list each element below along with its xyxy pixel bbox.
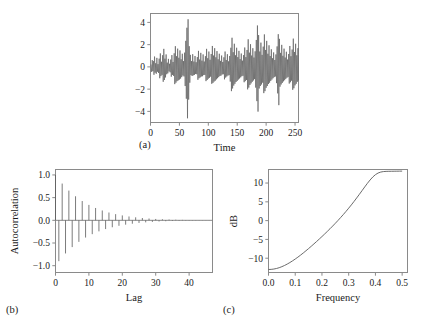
panel-c-ytick-label: 0 [258,216,263,226]
panel-b-xtick-label: 20 [118,278,128,288]
panel-b-ytick-label: −0.5 [33,238,50,248]
panel-a-xtick-label: 100 [201,128,216,138]
panel-a-time-series: 050100150200250−4−2024Time (a) [0,0,421,160]
panel-a-xtick-label: 250 [288,128,303,138]
panel-a-ytick-label: −4 [135,107,145,117]
panel-c-spectrum: 0.00.10.20.30.40.51050−5−10FrequencydB (… [215,160,421,328]
panel-c-ytick-label: −10 [248,254,263,264]
panel-a-xtick-label: 50 [175,128,185,138]
panel-b-yaxis-title: Autocorrelation [9,187,20,254]
panel-b-xtick-label: 10 [84,278,94,288]
panel-b-xaxis-title: Lag [126,292,143,303]
panel-c-xtick-label: 0.1 [289,278,301,288]
panel-b-ytick-label: 0.0 [38,216,50,226]
panel-a-xtick-label: 200 [259,128,274,138]
panel-c-xtick-label: 0.4 [369,278,381,288]
panel-b-xtick-label: 40 [184,278,194,288]
panel-b-xtick-label: 30 [151,278,161,288]
panel-c-label: (c) [223,304,235,315]
panel-a-xtick-label: 150 [230,128,245,138]
panel-b-ytick-label: −1.0 [33,261,50,271]
panel-c-xtick-label: 0.0 [263,278,275,288]
panel-a-canvas: 050100150200250−4−2024Time [0,0,421,160]
panel-c-ytick-label: −5 [253,235,263,245]
panel-b-ytick-label: 1.0 [38,170,50,180]
panel-c-xtick-label: 0.3 [343,278,355,288]
panel-b-xtick-label: 0 [53,278,58,288]
panel-a-ytick-label: 0 [140,62,145,72]
panel-a-xaxis-title: Time [214,142,236,153]
panel-a-ytick-label: 2 [140,40,145,50]
panel-c-yaxis-title: dB [228,215,239,227]
panel-b-label: (b) [6,304,18,315]
panel-a-ytick-label: −2 [135,85,145,95]
panel-c-xtick-label: 0.2 [316,278,328,288]
panel-b-canvas: 0102030401.00.50.0−0.5−1.0LagAutocorrela… [0,160,215,328]
panel-c-xtick-label: 0.5 [396,278,408,288]
panel-c-ytick-label: 5 [258,197,263,207]
panel-c-xaxis-title: Frequency [316,292,361,303]
panel-b-autocorrelation: 0102030401.00.50.0−0.5−1.0LagAutocorrela… [0,160,215,328]
panel-b-ytick-label: 0.5 [38,193,50,203]
panel-c-canvas: 0.00.10.20.30.40.51050−5−10FrequencydB [215,160,421,328]
panel-a-label: (a) [139,139,151,150]
panel-c-ytick-label: 10 [254,178,264,188]
panel-a-ytick-label: 4 [140,18,145,28]
panel-a-xtick-label: 0 [148,128,153,138]
